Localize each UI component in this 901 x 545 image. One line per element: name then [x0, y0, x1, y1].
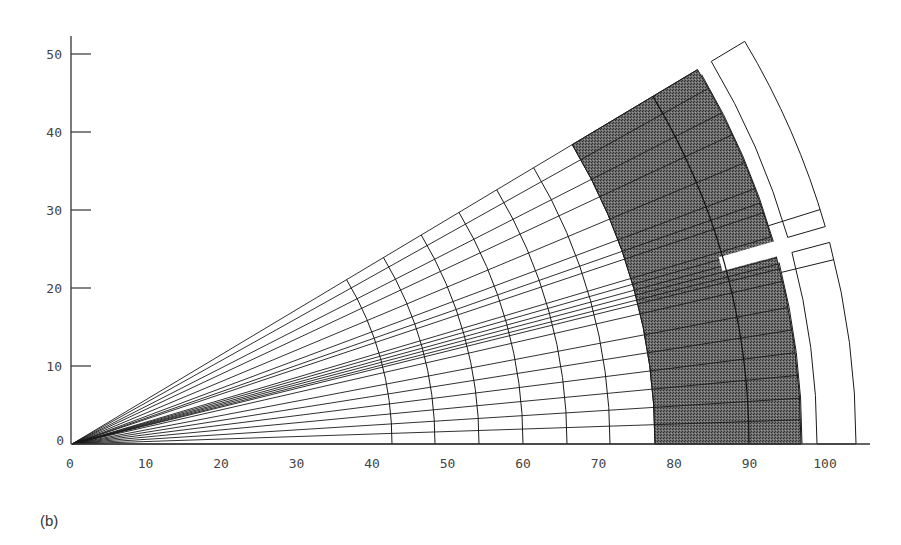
- mesh-arc-line: [497, 190, 567, 444]
- x-tick-label: 30: [289, 456, 305, 471]
- y-tick-label: 10: [46, 359, 62, 374]
- radial-ray-line: [72, 260, 719, 444]
- x-axis-ticks: 0102030405060708090100: [66, 456, 837, 471]
- x-tick-label: 60: [515, 456, 531, 471]
- radial-ray-line: [72, 266, 721, 444]
- radial-ray-line: [72, 113, 722, 444]
- x-tick-label: 50: [440, 456, 456, 471]
- x-tick-label: 90: [742, 456, 758, 471]
- x-tick-label: 100: [813, 456, 836, 471]
- mesh-arc-line: [534, 168, 610, 444]
- x-tick-label: 70: [591, 456, 607, 471]
- y-tick-label: 0: [56, 433, 64, 448]
- x-tick-label: 20: [213, 456, 229, 471]
- x-tick-label: 0: [66, 456, 74, 471]
- x-tick-label: 40: [364, 456, 380, 471]
- x-tick-label: 10: [138, 456, 154, 471]
- y-tick-label: 20: [46, 281, 62, 296]
- mesh-arc-line: [421, 235, 479, 444]
- panel-label: (b): [40, 512, 58, 529]
- mesh-arc-line: [459, 212, 523, 444]
- sector-mesh-diagram: 0102030405060708090100 01020304050: [0, 0, 901, 545]
- radial-ray-line: [72, 70, 698, 444]
- y-axis-ticks: 01020304050: [46, 47, 91, 448]
- radial-ray-line: [72, 135, 732, 444]
- y-tick-label: 30: [46, 203, 62, 218]
- y-tick-label: 50: [46, 47, 62, 62]
- radial-ray-line: [72, 88, 708, 444]
- y-tick-label: 40: [46, 125, 62, 140]
- x-tick-label: 80: [666, 456, 682, 471]
